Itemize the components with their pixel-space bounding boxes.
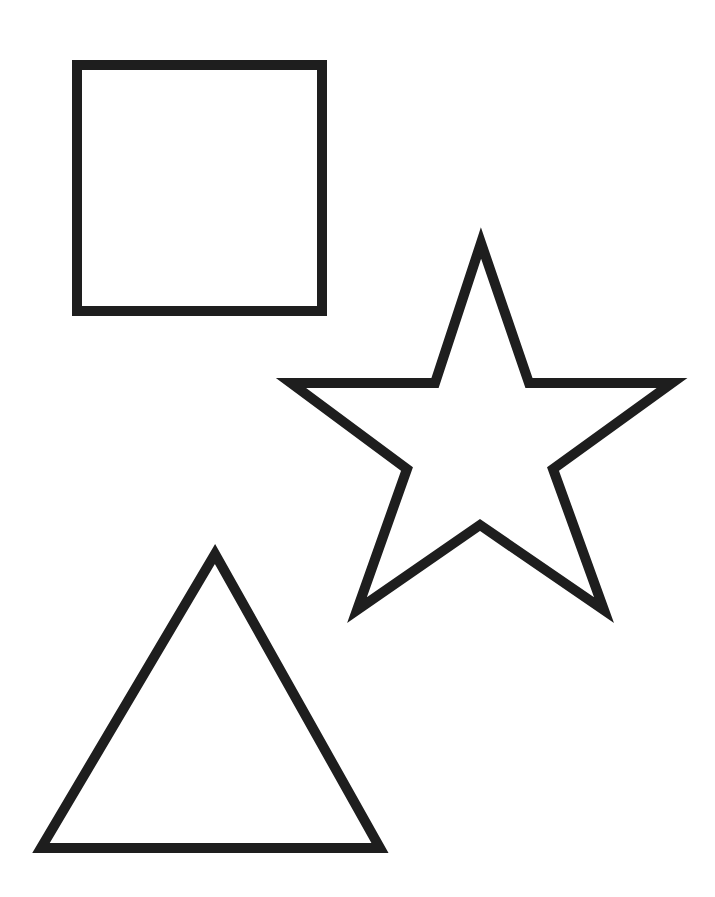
star-shape — [291, 243, 672, 610]
shapes-canvas — [0, 0, 715, 897]
square-shape — [77, 65, 322, 311]
triangle-shape — [41, 554, 380, 848]
